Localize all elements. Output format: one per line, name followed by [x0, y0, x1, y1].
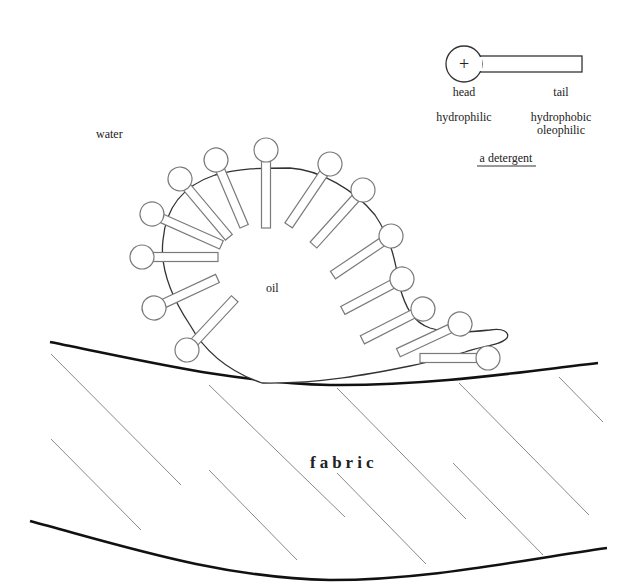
plus-icon: +	[459, 54, 469, 74]
legend-tail-label: tail	[553, 85, 569, 99]
legend-head-property: hydrophilic	[436, 110, 491, 124]
detergent-diagram: fabric oil water	[0, 0, 640, 584]
legend-tail-property-1: hydrophobic	[531, 110, 592, 124]
fabric-label: fabric	[310, 453, 377, 472]
legend-head-label: head	[453, 85, 476, 99]
legend-caption: a detergent	[480, 151, 533, 165]
oil-label: oil	[266, 281, 279, 295]
fabric-bottom-edge	[30, 521, 607, 580]
water-label: water	[96, 127, 123, 141]
legend-tail-property-2: oleophilic	[537, 123, 585, 137]
detergent-legend: + head tail hydrophilic hydrophobic oleo…	[436, 46, 591, 166]
